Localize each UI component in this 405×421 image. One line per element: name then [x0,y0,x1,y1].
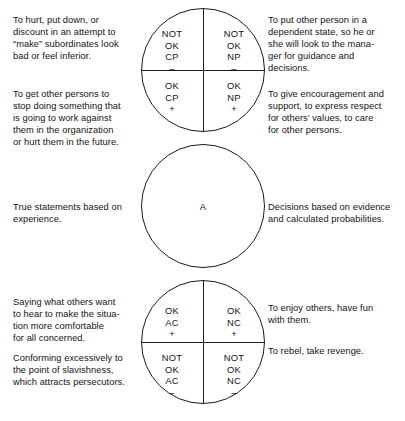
diagram-canvas: To hurt, put down, or discount in an att… [0,0,405,421]
child-quadrant-ok-nc: OK NC + [203,305,265,340]
parent-quadrant-not-ok-cp: NOT OK CP – [141,28,203,74]
child-quadrant-not-ok-nc: NOT OK NC – [203,352,265,398]
circle-stack: NOT OK CP – NOT OK NP – OK CP + OK NP + … [141,8,265,413]
note-ok-cp: To get other persons to stop doing somet… [13,88,145,148]
parent-quadrant-not-ok-np: NOT OK NP – [203,28,265,74]
note-adult-right: Decisions based on evidence and calculat… [268,201,403,225]
note-ok-ac: Saying what others want to hear to make … [13,296,143,344]
note-not-ok-ac: Conforming excessively to the point of s… [13,352,148,388]
child-quadrant-not-ok-ac: NOT OK AC – [141,352,203,398]
note-not-ok-nc: To rebel, take revenge. [268,345,401,357]
child-horizontal-divider [141,342,265,343]
parent-quadrant-ok-np: OK NP + [203,80,265,115]
adult-circle-label: A [141,201,265,212]
note-ok-np: To give encouragement and support, to ex… [268,88,403,136]
note-ok-nc: To enjoy others, have fun with them. [268,302,401,326]
parent-quadrant-ok-cp: OK CP + [141,80,203,115]
note-adult-left: True statements based on experience. [13,201,143,225]
note-not-ok-np: To put other person in a dependent state… [268,14,401,74]
note-not-ok-cp: To hurt, put down, or discount in an att… [13,14,141,62]
child-quadrant-ok-ac: OK AC + [141,305,203,340]
